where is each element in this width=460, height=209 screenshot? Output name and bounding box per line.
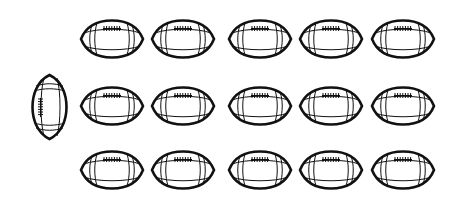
football-icon [298,19,364,59]
football-icon [227,86,293,126]
football-icon [227,150,293,190]
football-icon [298,150,364,190]
football-icon [150,19,216,59]
football-icon [370,19,436,59]
football-icon [298,86,364,126]
football-icon-vertical [31,73,68,141]
football-icon [79,19,145,59]
football-icon [150,150,216,190]
football-icon [150,86,216,126]
football-icon [370,150,436,190]
football-icon [79,150,145,190]
football-icon [227,19,293,59]
football-icon [79,86,145,126]
football-icon [370,86,436,126]
